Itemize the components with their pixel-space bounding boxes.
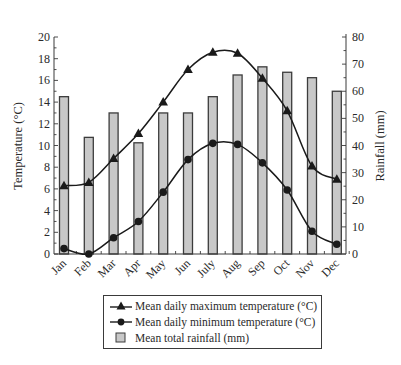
left-axis-tick-label: 12 <box>38 117 50 131</box>
rainfall-bar <box>184 113 193 254</box>
legend-label: Mean daily maximum temperature (°C) <box>135 298 317 314</box>
circle-marker-icon <box>60 245 68 253</box>
max-temp-line <box>64 50 337 186</box>
right-axis-tick-label: 70 <box>352 57 364 71</box>
left-axis-tick-label: 18 <box>38 52 50 66</box>
legend-label: Mean total rainfall (mm) <box>135 330 249 346</box>
right-axis-tick-label: 30 <box>352 166 364 180</box>
left-axis-tick-label: 8 <box>44 160 50 174</box>
legend-item-rainfall: Mean total rainfall (mm) <box>110 330 321 346</box>
rainfall-bar <box>283 72 292 254</box>
month-label: Mar <box>95 256 119 280</box>
left-axis-tick-label: 0 <box>44 247 50 261</box>
circle-marker-icon <box>159 188 167 196</box>
min-temp-line <box>64 142 337 255</box>
legend-item-max-temp: Mean daily maximum temperature (°C) <box>110 298 321 314</box>
circle-marker-icon <box>85 250 93 258</box>
month-label: July <box>194 256 218 280</box>
grey-square-icon <box>110 332 132 344</box>
rainfall-bar <box>134 143 143 254</box>
left-axis-tick-label: 4 <box>44 204 50 218</box>
month-label: May <box>143 256 168 281</box>
month-label: Jun <box>171 256 193 278</box>
right-axis-tick-label: 80 <box>352 30 364 44</box>
right-axis-tick-label: 60 <box>352 84 364 98</box>
month-label: Sep <box>245 256 268 279</box>
left-axis-tick-label: 10 <box>38 139 50 153</box>
right-axis-title: Rainfall (mm) <box>373 110 387 181</box>
right-axis-tick-label: 0 <box>352 247 358 261</box>
legend-label: Mean daily minimum temperature (°C) <box>135 314 315 330</box>
month-label: Dec <box>318 256 342 280</box>
circle-marker-icon <box>283 186 291 194</box>
rainfall-bar <box>159 113 168 254</box>
left-axis-tick-label: 14 <box>38 95 50 109</box>
rainfall-bar <box>109 113 118 254</box>
right-axis-tick-label: 10 <box>352 220 364 234</box>
chart-legend: Mean daily maximum temperature (°C) Mean… <box>103 295 322 349</box>
circle-marker-icon <box>110 234 118 242</box>
left-axis-title: Temperature (°C) <box>11 102 25 190</box>
rainfall-bar <box>233 75 242 254</box>
legend-item-min-temp: Mean daily minimum temperature (°C) <box>110 314 321 330</box>
left-axis-tick-label: 20 <box>38 30 50 44</box>
rainfall-bar <box>60 97 69 254</box>
month-label: Apr <box>120 256 143 279</box>
circle-marker-icon <box>209 140 217 148</box>
month-label: Feb <box>71 256 94 279</box>
month-label: Jan <box>48 256 69 277</box>
circle-line-icon <box>110 316 132 328</box>
temperature-lines <box>59 47 341 258</box>
rainfall-bar <box>208 97 217 254</box>
circle-marker-icon <box>259 159 267 167</box>
month-label: Oct <box>270 256 293 279</box>
circle-marker-icon <box>135 218 143 226</box>
circle-marker-icon <box>234 141 242 149</box>
circle-marker-icon <box>333 240 341 248</box>
left-axis-tick-label: 6 <box>44 182 50 196</box>
right-axis-tick-label: 20 <box>352 193 364 207</box>
circle-marker-icon <box>184 156 192 164</box>
rainfall-bar <box>84 137 93 254</box>
climate-chart: 0246810121416182001020304050607080JanFeb… <box>0 0 401 290</box>
right-axis-tick-label: 50 <box>352 111 364 125</box>
rainfall-bars <box>60 67 342 254</box>
triangle-line-icon <box>110 300 132 312</box>
circle-marker-icon <box>308 227 316 235</box>
month-label: Aug <box>218 256 243 281</box>
left-axis-tick-label: 2 <box>44 225 50 239</box>
right-axis-tick-label: 40 <box>352 139 364 153</box>
left-axis-tick-label: 16 <box>38 73 50 87</box>
month-label: Nov <box>293 256 318 281</box>
rainfall-bar <box>332 91 341 254</box>
